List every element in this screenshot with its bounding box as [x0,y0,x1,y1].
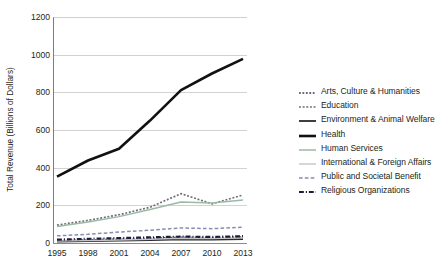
plot-area [53,17,247,243]
legend-swatch-icon [299,85,316,97]
chart-container: Total Revenue (Billions of Dollars) 0200… [0,0,448,275]
x-tick-label: 2007 [171,248,190,258]
x-tick-label: 2001 [109,248,128,258]
x-tick-label: 2004 [140,248,159,258]
legend-label: Arts, Culture & Humanities [321,86,420,96]
legend-label: Health [321,129,345,139]
legend-item[interactable]: International & Foreign Affairs [299,155,448,169]
y-tick-label: 400 [14,163,50,173]
legend-label: International & Foreign Affairs [321,157,431,167]
legend-swatch-icon [299,113,316,125]
legend-swatch-icon [299,170,316,182]
legend-item[interactable]: Human Services [299,141,448,155]
x-tick-label: 1995 [47,248,66,258]
series-line [57,200,243,226]
legend-item[interactable]: Public and Societal Benefit [299,169,448,183]
series-line [57,59,243,177]
legend-item[interactable]: Arts, Culture & Humanities [299,84,448,98]
y-tick-label: 800 [14,87,50,97]
legend-item[interactable]: Environment & Animal Welfare [299,112,448,126]
y-tick-label: 600 [14,125,50,135]
y-tick-label: 0 [14,238,50,248]
y-tick-label: 200 [14,200,50,210]
legend-label: Religious Organizations [321,185,410,195]
series-line [57,227,243,236]
y-tick-label: 1200 [14,12,50,22]
legend-item[interactable]: Religious Organizations [299,183,448,197]
x-axis-ticks: 1995199820012004200720102013 [53,248,247,268]
legend-item[interactable]: Education [299,98,448,112]
y-tick-label: 1000 [14,50,50,60]
legend-swatch-icon [299,184,316,196]
x-tick-label: 1998 [78,248,97,258]
legend-swatch-icon [299,99,316,111]
legend-label: Public and Societal Benefit [321,171,421,181]
legend-swatch-icon [299,142,316,154]
x-tick-label: 2010 [202,248,221,258]
legend-label: Environment & Animal Welfare [321,114,435,124]
legend-swatch-icon [299,156,316,168]
x-tick-label: 2013 [233,248,252,258]
legend-item[interactable]: Health [299,127,448,141]
legend-label: Human Services [321,143,383,153]
legend-label: Education [321,100,358,110]
legend-swatch-icon [299,128,316,140]
series-lines [53,17,247,243]
y-axis-ticks: 020040060080010001200 [10,0,50,275]
gridline [53,243,247,244]
legend: Arts, Culture & HumanitiesEducationEnvir… [299,84,448,198]
